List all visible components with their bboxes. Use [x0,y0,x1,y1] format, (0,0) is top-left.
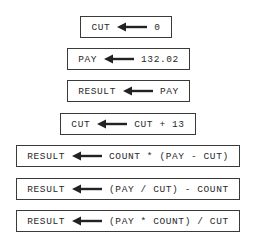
expression: 0 [154,22,160,33]
left-arrow-icon [117,22,147,32]
target-variable: RESULT [78,86,116,97]
left-arrow-icon [123,86,153,96]
expression: (PAY / CUT) - COUNT [109,184,229,195]
expression: PAY [160,86,179,97]
assignment-box-4: CUT CUT + 13 [60,113,196,135]
target-variable: RESULT [27,216,65,227]
left-arrow-icon [104,54,134,64]
assignment-box-7: RESULT (PAY * COUNT) / CUT [16,210,240,232]
assignment-box-5: RESULT COUNT * (PAY - CUT) [16,145,240,167]
target-variable: PAY [78,54,97,65]
expression: 132.02 [141,54,179,65]
left-arrow-icon [72,184,102,194]
expression: (PAY * COUNT) / CUT [109,216,229,227]
left-arrow-icon [72,216,102,226]
expression: COUNT * (PAY - CUT) [109,151,229,162]
left-arrow-icon [97,119,127,129]
target-variable: RESULT [27,151,65,162]
assignment-box-6: RESULT (PAY / CUT) - COUNT [16,178,240,200]
target-variable: CUT [91,22,110,33]
assignment-box-3: RESULT PAY [67,80,190,102]
left-arrow-icon [72,151,102,161]
assignment-box-1: CUT 0 [80,16,172,38]
expression: CUT + 13 [134,119,184,130]
assignment-box-2: PAY 132.02 [67,48,190,70]
target-variable: CUT [71,119,90,130]
target-variable: RESULT [27,184,65,195]
